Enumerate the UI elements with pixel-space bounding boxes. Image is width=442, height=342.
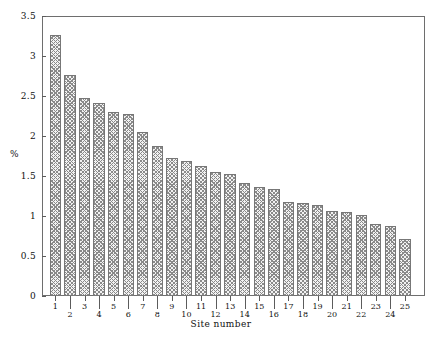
bar xyxy=(326,211,337,296)
x-axis-tick-mark xyxy=(201,296,202,301)
x-axis-tick-label: 16 xyxy=(269,311,279,319)
x-axis-tick-label: 3 xyxy=(82,303,87,311)
bar xyxy=(399,239,410,296)
x-axis-tick-mark xyxy=(332,296,333,309)
y-axis-tick-label: 0.5 xyxy=(21,252,36,261)
bar xyxy=(137,132,148,296)
x-axis-tick-label: 8 xyxy=(155,311,160,319)
bars-layer xyxy=(42,16,425,296)
x-axis-tick-label: 13 xyxy=(225,303,235,311)
x-axis-tick-label: 6 xyxy=(126,311,131,319)
bar xyxy=(166,158,177,296)
x-axis-tick-label: 9 xyxy=(169,303,174,311)
bar xyxy=(239,183,250,296)
x-axis-tick-label: 21 xyxy=(342,303,352,311)
x-axis-tick-mark xyxy=(99,296,100,309)
y-axis-tick-label: 3 xyxy=(30,52,36,61)
x-axis-tick-label: 12 xyxy=(210,311,220,319)
bar xyxy=(50,35,61,296)
x-axis-tick-mark xyxy=(55,296,56,301)
y-axis-tick-label: 1.5 xyxy=(21,172,36,181)
y-axis-tick-label: 0 xyxy=(30,292,36,301)
x-axis-tick-mark xyxy=(85,296,86,301)
x-axis-tick-label: 1 xyxy=(53,303,58,311)
x-axis-tick-label: 19 xyxy=(312,303,322,311)
bar xyxy=(283,202,294,296)
x-axis-tick-mark xyxy=(347,296,348,301)
x-axis-tick-mark xyxy=(361,296,362,309)
x-axis-tick-label: 11 xyxy=(196,303,206,311)
y-axis-tick-label: 2 xyxy=(30,132,36,141)
bar xyxy=(108,112,119,296)
bar xyxy=(224,174,235,296)
bar xyxy=(64,75,75,296)
bar xyxy=(93,103,104,296)
x-axis-tick-label: 24 xyxy=(385,311,395,319)
bar xyxy=(195,166,206,296)
bar xyxy=(385,226,396,296)
bar xyxy=(254,187,265,296)
x-axis-tick-label: 14 xyxy=(240,311,250,319)
x-axis-tick-mark xyxy=(128,296,129,309)
y-axis-title: % xyxy=(10,150,19,159)
bar-chart: 00.511.522.533.5 12345678910111213141516… xyxy=(0,0,442,342)
x-axis-tick-mark xyxy=(172,296,173,301)
bar xyxy=(268,189,279,296)
bar xyxy=(370,224,381,296)
x-axis-tick-mark xyxy=(318,296,319,301)
y-axis-tick-label: 2.5 xyxy=(21,92,36,101)
bar xyxy=(152,146,163,296)
x-axis-tick-mark xyxy=(274,296,275,309)
x-axis-tick-label: 10 xyxy=(181,311,191,319)
x-axis-tick-mark xyxy=(143,296,144,301)
x-axis-tick-mark xyxy=(186,296,187,309)
x-axis-title: Site number xyxy=(0,320,442,329)
bar xyxy=(356,215,367,296)
y-axis-tick-labels: 00.511.522.533.5 xyxy=(0,0,36,342)
bar xyxy=(210,172,221,296)
x-axis-tick-label: 20 xyxy=(327,311,337,319)
y-axis-tick-label: 3.5 xyxy=(21,12,36,21)
x-axis-tick-mark xyxy=(303,296,304,309)
x-axis-tick-label: 22 xyxy=(356,311,366,319)
x-axis-tick-label: 25 xyxy=(400,303,410,311)
x-axis-tick-label: 15 xyxy=(254,303,264,311)
x-axis-tick-mark xyxy=(157,296,158,309)
x-axis-tick-label: 7 xyxy=(140,303,145,311)
x-axis-tick-label: 5 xyxy=(111,303,116,311)
x-axis-tick-mark xyxy=(376,296,377,301)
x-axis-tick-label: 17 xyxy=(283,303,293,311)
x-axis-tick-label: 2 xyxy=(67,311,72,319)
x-axis-tick-mark xyxy=(70,296,71,309)
x-axis-tick-mark xyxy=(288,296,289,301)
y-axis-tick-label: 1 xyxy=(30,212,36,221)
x-axis-tick-mark xyxy=(245,296,246,309)
x-axis-tick-mark xyxy=(114,296,115,301)
x-axis-tick-mark xyxy=(230,296,231,301)
bar xyxy=(312,205,323,296)
bar xyxy=(297,203,308,296)
x-axis-tick-mark xyxy=(405,296,406,301)
y-axis-tick-mark xyxy=(42,296,46,297)
x-axis-tick-label: 4 xyxy=(97,311,102,319)
bar xyxy=(181,161,192,296)
x-axis-tick-mark xyxy=(216,296,217,309)
x-axis-tick-label: 18 xyxy=(298,311,308,319)
bar xyxy=(341,212,352,296)
bar xyxy=(123,114,134,296)
x-axis-tick-mark xyxy=(259,296,260,301)
x-axis-tick-mark xyxy=(390,296,391,309)
x-axis-tick-label: 23 xyxy=(371,303,381,311)
bar xyxy=(79,98,90,296)
